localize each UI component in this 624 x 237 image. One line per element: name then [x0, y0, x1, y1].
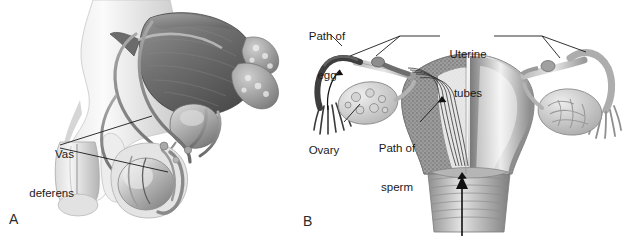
label-path-of-sperm-line2: sperm: [370, 181, 424, 194]
label-vas-deferens-line1: Vas: [18, 148, 74, 161]
panel-letter-b: B: [303, 213, 312, 229]
panel-a-male-reproductive-system: Vas deferens A: [0, 0, 312, 237]
ovary-right: [524, 84, 604, 138]
figure-container: Vas deferens A: [0, 0, 624, 237]
label-uterine-tubes-line2: tubes: [440, 87, 496, 100]
label-path-of-egg: Path of egg: [298, 4, 356, 108]
label-path-of-sperm: Path of sperm: [370, 116, 424, 220]
panel-b-female-reproductive-system: Path of egg Uterine tubes Ovary Path of …: [312, 0, 624, 237]
panel-letter-a: A: [9, 211, 18, 227]
label-uterine-tubes-line1: Uterine: [440, 48, 496, 61]
label-ovary: Ovary: [301, 118, 347, 183]
label-vas-deferens: Vas deferens: [18, 122, 74, 226]
label-vas-deferens-line2: deferens: [18, 187, 74, 200]
scrotum-testis-group: [111, 143, 188, 218]
label-ovary-line1: Ovary: [301, 144, 347, 157]
label-uterine-tubes: Uterine tubes: [440, 22, 496, 126]
label-path-of-egg-line1: Path of: [298, 30, 356, 43]
label-path-of-sperm-line1: Path of: [370, 142, 424, 155]
label-path-of-egg-line2: egg: [298, 69, 356, 82]
